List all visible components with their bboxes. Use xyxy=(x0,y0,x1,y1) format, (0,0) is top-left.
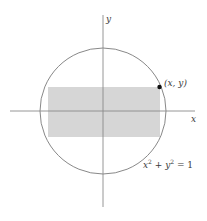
x-axis-label: x xyxy=(191,114,196,124)
shaded-rectangle xyxy=(48,87,160,137)
eq-plus: + xyxy=(152,160,165,170)
point-marker xyxy=(157,85,161,89)
point-label: (x, y) xyxy=(164,78,187,88)
eq-rhs: = 1 xyxy=(174,160,193,170)
circle-equation: x2 + y2 = 1 xyxy=(143,158,193,170)
y-axis-label: y xyxy=(105,14,112,24)
unit-circle-diagram: y x (x, y) x2 + y2 = 1 xyxy=(0,0,207,221)
